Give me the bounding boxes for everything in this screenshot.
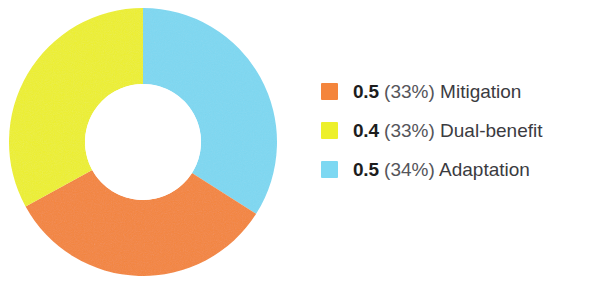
legend-item-mitigation[interactable]: 0.5 (33%) Mitigation bbox=[321, 72, 591, 111]
legend-text-mitigation: 0.5 (33%) Mitigation bbox=[353, 82, 521, 101]
donut-chart-figure: 0.5 (33%) Mitigation 0.4 (33%) Dual-bene… bbox=[0, 0, 601, 281]
donut-center-hole bbox=[85, 84, 201, 200]
legend-swatch-mitigation bbox=[321, 83, 338, 100]
legend-label-dual-benefit: Dual-benefit bbox=[440, 120, 542, 141]
legend-value-dual-benefit: 0.4 bbox=[353, 120, 379, 141]
legend-text-dual-benefit: 0.4 (33%) Dual-benefit bbox=[353, 121, 543, 140]
legend-value-adaptation: 0.5 bbox=[353, 159, 379, 180]
legend-label-adaptation: Adaptation bbox=[439, 159, 530, 180]
legend-swatch-dual-benefit bbox=[321, 122, 338, 139]
legend-item-adaptation[interactable]: 0.5 (34%) Adaptation bbox=[321, 150, 591, 189]
legend-swatch-adaptation bbox=[321, 161, 338, 178]
legend-percent-adaptation: (34%) bbox=[384, 159, 435, 180]
legend-text-adaptation: 0.5 (34%) Adaptation bbox=[353, 160, 530, 179]
chart-legend: 0.5 (33%) Mitigation 0.4 (33%) Dual-bene… bbox=[321, 72, 591, 189]
legend-percent-mitigation: (33%) bbox=[384, 81, 435, 102]
legend-item-dual-benefit[interactable]: 0.4 (33%) Dual-benefit bbox=[321, 111, 591, 150]
donut-chart bbox=[9, 8, 277, 276]
legend-label-mitigation: Mitigation bbox=[440, 81, 521, 102]
legend-value-mitigation: 0.5 bbox=[353, 81, 379, 102]
donut-chart-svg bbox=[9, 8, 277, 276]
legend-percent-dual-benefit: (33%) bbox=[384, 120, 435, 141]
